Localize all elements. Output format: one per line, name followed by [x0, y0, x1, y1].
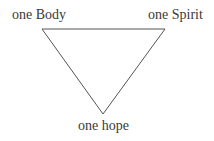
triangle-shape: [42, 29, 165, 114]
label-one-spirit: one Spirit: [148, 7, 203, 23]
label-one-body: one Body: [12, 7, 66, 23]
label-one-hope: one hope: [78, 118, 129, 134]
